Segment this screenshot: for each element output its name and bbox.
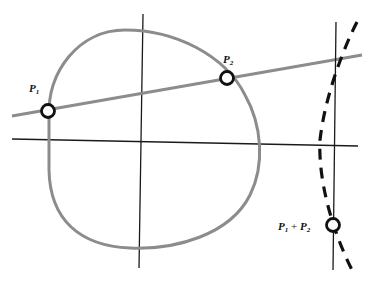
- label-p2: P2: [223, 53, 234, 67]
- point-p1: [42, 105, 55, 118]
- point-sum: [327, 219, 340, 232]
- point-p2: [221, 72, 234, 85]
- x-axis: [12, 139, 358, 146]
- elliptic-curve-diagram: P1 P2 P1 + P2: [0, 0, 374, 283]
- label-p1: P1: [29, 82, 39, 96]
- label-sum: P1 + P2: [278, 220, 311, 234]
